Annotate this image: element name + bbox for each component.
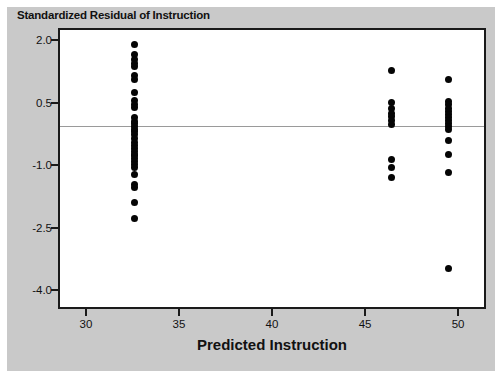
data-point — [131, 199, 138, 206]
x-axis-tick-label: 30 — [80, 318, 93, 330]
data-point — [445, 137, 452, 144]
y-axis-tick-label: 2.0 — [36, 34, 52, 46]
data-point — [445, 126, 452, 133]
x-axis-title: Predicted Instruction — [58, 336, 486, 353]
chart-title: Standardized Residual of Instruction — [17, 9, 210, 21]
y-axis-tick-marks — [51, 28, 59, 309]
data-point — [131, 63, 138, 70]
x-axis-tick-marks — [58, 309, 486, 317]
x-axis-tick-label: 50 — [452, 318, 465, 330]
data-point — [445, 76, 452, 83]
x-axis-tick-label: 40 — [266, 318, 279, 330]
x-axis-tick-label: 35 — [173, 318, 186, 330]
x-axis-tick-labels: 3035404550 — [58, 318, 486, 334]
x-axis-tick-label: 45 — [359, 318, 372, 330]
data-point — [388, 174, 395, 181]
y-axis-tick-label: -1.0 — [32, 159, 52, 171]
data-point — [445, 169, 452, 176]
y-axis-tick-mark — [51, 227, 58, 229]
data-point — [131, 104, 138, 111]
data-point — [388, 121, 395, 128]
y-axis-tick-label: 0.5 — [36, 97, 52, 109]
data-point — [131, 76, 138, 83]
x-axis-tick-mark — [457, 309, 459, 316]
zero-reference-line — [60, 126, 484, 127]
y-axis-tick-labels: 2.00.5-1.0-2.5-4.0 — [10, 28, 52, 309]
x-axis-tick-mark — [85, 309, 87, 316]
x-axis-tick-mark — [178, 309, 180, 316]
y-axis-tick-label: -2.5 — [32, 222, 52, 234]
plot-area — [60, 30, 484, 307]
data-point — [388, 67, 395, 74]
y-axis-tick-label: -4.0 — [32, 284, 52, 296]
plot-frame — [58, 28, 486, 309]
y-axis-tick-mark — [51, 39, 58, 41]
y-axis-tick-mark — [51, 102, 58, 104]
chart-figure: Standardized Residual of Instruction 2.0… — [0, 0, 501, 380]
data-point — [131, 89, 138, 96]
data-point — [131, 215, 138, 222]
y-axis-tick-mark — [51, 164, 58, 166]
x-axis-tick-mark — [271, 309, 273, 316]
data-point — [131, 171, 138, 178]
y-axis-tick-mark — [51, 289, 58, 291]
data-point — [445, 151, 452, 158]
data-point — [445, 265, 452, 272]
data-point — [131, 41, 138, 48]
data-point — [388, 164, 395, 171]
data-point — [131, 184, 138, 191]
x-axis-tick-mark — [364, 309, 366, 316]
data-point — [388, 156, 395, 163]
chart-figure-inner: Standardized Residual of Instruction 2.0… — [7, 7, 495, 371]
data-point — [131, 164, 138, 171]
